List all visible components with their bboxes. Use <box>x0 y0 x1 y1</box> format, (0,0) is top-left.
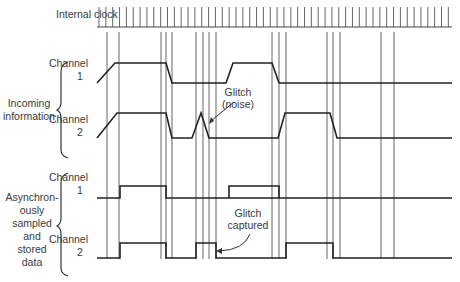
glitch-noise-arrowhead <box>209 117 214 124</box>
stored-channel-1-waveform-pulse-2 <box>229 186 279 198</box>
timing-diagram-canvas: Internal clock Channel 1 Channel 2 Chann… <box>0 0 460 282</box>
svg-text:2: 2 <box>77 246 83 258</box>
stored-channel-1-waveform <box>97 186 452 198</box>
svg-text:1: 1 <box>77 184 83 196</box>
stored-channel-2-waveform <box>97 243 452 258</box>
svg-text:and: and <box>23 230 41 242</box>
svg-text:captured: captured <box>228 219 269 231</box>
svg-text:Channel: Channel <box>49 233 88 245</box>
stored-channel-2-label: Channel 2 <box>49 233 88 258</box>
svg-text:2: 2 <box>77 126 83 138</box>
stored-brace <box>57 173 68 276</box>
incoming-channel-1-waveform <box>97 63 452 83</box>
svg-text:information: information <box>3 110 55 122</box>
svg-text:Channel: Channel <box>49 57 88 69</box>
svg-text:data: data <box>22 256 43 268</box>
svg-text:ously: ously <box>20 204 45 216</box>
incoming-information-label: Incoming information <box>3 97 55 122</box>
glitch-captured-arrow <box>219 234 250 251</box>
timing-diagram: Internal clock Channel 1 Channel 2 Chann… <box>0 0 460 282</box>
clock-label: Internal clock <box>56 8 119 20</box>
stored-data-label: Asynchron- ously sampled and stored data <box>5 191 59 268</box>
incoming-channel-2-waveform <box>97 113 452 138</box>
glitch-captured-annotation: Glitch captured <box>216 207 269 254</box>
svg-text:stored: stored <box>17 243 46 255</box>
incoming-brace <box>57 62 68 158</box>
svg-text:Glitch: Glitch <box>225 86 252 98</box>
svg-text:Channel: Channel <box>49 171 88 183</box>
svg-text:1: 1 <box>77 70 83 82</box>
svg-text:sampled: sampled <box>12 217 52 229</box>
clock-ticks <box>99 7 448 27</box>
glitch-captured-arrowhead <box>216 248 222 254</box>
svg-text:Incoming: Incoming <box>8 97 51 109</box>
incoming-channel-1-label: Channel 1 <box>49 57 88 82</box>
svg-text:Glitch: Glitch <box>235 207 262 219</box>
svg-text:Asynchron-: Asynchron- <box>5 191 59 203</box>
